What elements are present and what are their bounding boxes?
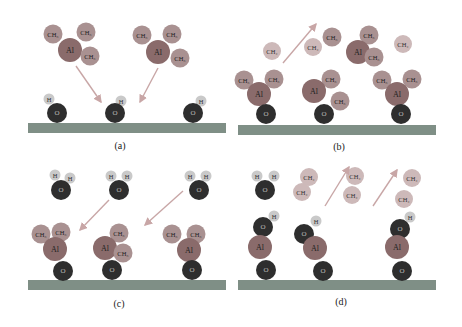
svg-text:CH₃: CH₃ xyxy=(334,98,345,105)
svg-text:Al: Al xyxy=(51,245,60,254)
al-atom: Al xyxy=(58,38,82,62)
svg-text:H: H xyxy=(188,173,193,180)
al-atom: Al xyxy=(385,235,409,259)
svg-text:O: O xyxy=(109,266,114,274)
svg-text:CH₃: CH₃ xyxy=(363,32,374,39)
substrate-c xyxy=(28,280,226,290)
reaction-arrow xyxy=(140,68,158,102)
o-atom: O xyxy=(51,180,71,200)
h-atom: H xyxy=(311,216,322,227)
svg-text:CH₃: CH₃ xyxy=(166,31,177,38)
ch4-atom: CH₄ xyxy=(403,169,421,187)
h-atom: H xyxy=(405,212,416,223)
ch3-atom: CH₃ xyxy=(163,25,182,44)
ch3-atom: CH₃ xyxy=(163,225,182,244)
h-atom: H xyxy=(252,171,263,182)
o-atom: O xyxy=(253,217,273,237)
h-atom: H xyxy=(122,171,133,182)
al-atom: Al xyxy=(247,82,271,106)
svg-text:Al: Al xyxy=(393,90,402,99)
svg-text:H: H xyxy=(314,218,319,225)
o-atom: O xyxy=(314,104,334,124)
svg-text:CH₃: CH₃ xyxy=(117,250,128,257)
svg-text:O: O xyxy=(320,267,325,275)
o-atom: O xyxy=(102,260,122,280)
svg-text:CH₄: CH₄ xyxy=(266,48,278,55)
svg-text:CH₄: CH₄ xyxy=(296,189,308,196)
svg-text:CH₃: CH₃ xyxy=(166,231,177,238)
svg-text:O: O xyxy=(54,109,59,117)
reaction-arrow xyxy=(373,170,397,206)
o-atom: O xyxy=(183,103,203,123)
svg-text:CH₃: CH₃ xyxy=(47,31,58,38)
svg-text:H: H xyxy=(255,173,260,180)
ch3-atom: CH₃ xyxy=(323,28,342,47)
svg-text:CH₃: CH₃ xyxy=(174,55,185,62)
svg-text:H: H xyxy=(119,98,124,105)
panel-c-caption: (c) xyxy=(113,298,124,310)
svg-text:O: O xyxy=(263,266,268,274)
ald-diagram: HHHOOOCH₃CH₃AlCH₃CH₃CH₃AlCH₃CH₄CH₄CH₄CH₃… xyxy=(0,0,462,327)
substrate-a xyxy=(28,123,226,133)
panel-b-caption: (b) xyxy=(333,141,345,153)
h-atom: H xyxy=(185,171,196,182)
h-atom: H xyxy=(269,211,280,222)
o-atom: O xyxy=(53,261,73,281)
o-atom: O xyxy=(47,103,67,123)
ch3-atom: CH₃ xyxy=(77,23,96,42)
ch4-atom: CH₄ xyxy=(346,167,364,185)
panel-a-caption: (a) xyxy=(114,140,125,152)
ch3-atom: CH₃ xyxy=(133,26,152,45)
o-atom: O xyxy=(392,261,412,281)
o-atom: O xyxy=(391,104,411,124)
svg-text:O: O xyxy=(112,109,117,117)
svg-text:O: O xyxy=(190,109,195,117)
h-atom: H xyxy=(44,94,55,105)
svg-text:Al: Al xyxy=(154,48,163,57)
svg-text:H: H xyxy=(199,98,204,105)
svg-text:H: H xyxy=(125,173,130,180)
svg-text:CH₃: CH₃ xyxy=(326,34,337,41)
al-atom: Al xyxy=(93,236,117,260)
svg-text:O: O xyxy=(260,223,265,231)
o-atom: O xyxy=(256,260,276,280)
ch4-atom: CH₄ xyxy=(395,190,413,208)
ch4-atom: CH₄ xyxy=(293,183,311,201)
svg-text:Al: Al xyxy=(310,87,319,96)
svg-text:H: H xyxy=(408,214,413,221)
o-atom: O xyxy=(105,103,125,123)
o-atom: O xyxy=(255,180,275,200)
svg-text:CH₄: CH₄ xyxy=(303,174,315,181)
svg-text:CH₄: CH₄ xyxy=(398,196,410,203)
svg-text:Al: Al xyxy=(255,90,264,99)
h-atom: H xyxy=(106,171,117,182)
o-atom: O xyxy=(256,104,276,124)
svg-text:O: O xyxy=(196,186,201,194)
ch4-atom: CH₄ xyxy=(304,38,322,56)
ch3-atom: CH₃ xyxy=(114,244,133,263)
svg-text:CH₃: CH₃ xyxy=(84,53,95,60)
al-atom: Al xyxy=(303,236,327,260)
svg-text:CH₃: CH₃ xyxy=(35,231,46,238)
svg-text:CH₃: CH₃ xyxy=(268,76,279,83)
svg-text:Al: Al xyxy=(311,244,320,253)
o-atom: O xyxy=(109,180,129,200)
al-atom: Al xyxy=(248,235,272,259)
svg-text:O: O xyxy=(301,230,306,238)
reaction-arrow xyxy=(76,66,101,102)
svg-text:CH₃: CH₃ xyxy=(238,77,249,84)
svg-text:Al: Al xyxy=(393,243,402,252)
svg-text:Al: Al xyxy=(66,46,75,55)
ch3-atom: CH₃ xyxy=(365,48,384,67)
svg-text:H: H xyxy=(109,173,114,180)
svg-text:CH₃: CH₃ xyxy=(136,32,147,39)
ch3-atom: CH₃ xyxy=(171,49,190,68)
svg-text:O: O xyxy=(321,110,326,118)
svg-text:CH₄: CH₄ xyxy=(346,192,358,199)
substrate-d xyxy=(238,280,436,290)
svg-text:CH₄: CH₄ xyxy=(406,175,418,182)
panel-d-caption: (d) xyxy=(335,296,347,308)
svg-text:O: O xyxy=(262,186,267,194)
h-atom: H xyxy=(269,171,280,182)
svg-text:Al: Al xyxy=(101,244,110,253)
